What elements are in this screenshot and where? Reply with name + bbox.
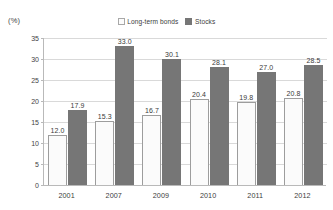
plot-area: 05101520253035 12.017.915.333.016.730.12… <box>43 38 326 186</box>
bar-stocks-2001[interactable] <box>68 110 87 185</box>
legend-item-stocks: Stocks <box>185 18 215 25</box>
x-axis-tick-label-2012: 2012 <box>279 187 326 205</box>
bar-value-label: 12.0 <box>51 127 65 134</box>
y-axis-tick-label: 25 <box>31 77 39 84</box>
bar-value-label: 20.8 <box>286 90 300 97</box>
bar-value-label: 28.5 <box>306 57 320 64</box>
legend-label-long-term-bonds: Long-term bonds <box>127 18 178 25</box>
bar-stocks-2007[interactable] <box>115 46 134 185</box>
bar-long-term-bonds-2012[interactable] <box>284 98 303 185</box>
legend-swatch-long-term-bonds <box>118 18 125 25</box>
bar-value-label: 27.0 <box>259 64 273 71</box>
bar-long-term-bonds-2001[interactable] <box>48 135 67 185</box>
bar-wrapper: 33.0 <box>115 38 134 185</box>
bar-group: 20.828.5 <box>280 38 327 185</box>
y-axis-tick-label: 0 <box>35 182 39 189</box>
bar-wrapper: 15.3 <box>95 38 114 185</box>
bar-long-term-bonds-2009[interactable] <box>142 115 161 185</box>
bar-long-term-bonds-2011[interactable] <box>237 102 256 185</box>
y-axis-tick-label: 35 <box>31 35 39 42</box>
bar-wrapper: 28.1 <box>210 38 229 185</box>
bar-chart: (%) Long-term bonds Stocks 0510152025303… <box>0 0 333 210</box>
legend-label-stocks: Stocks <box>195 18 215 25</box>
y-axis-tick-label: 15 <box>31 119 39 126</box>
x-axis-tick-label-2007: 2007 <box>90 187 137 205</box>
bar-wrapper: 20.8 <box>284 38 303 185</box>
bar-long-term-bonds-2007[interactable] <box>95 121 114 185</box>
bar-wrapper: 28.5 <box>304 38 323 185</box>
y-axis-tick-label: 5 <box>35 161 39 168</box>
x-axis-tick-label-2001: 2001 <box>43 187 90 205</box>
bar-group: 16.730.1 <box>138 38 185 185</box>
bar-group: 15.333.0 <box>91 38 138 185</box>
x-axis-tick-label-2011: 2011 <box>232 187 279 205</box>
bar-value-label: 15.3 <box>98 113 112 120</box>
bar-wrapper: 16.7 <box>142 38 161 185</box>
legend-item-long-term-bonds: Long-term bonds <box>118 18 179 25</box>
bar-wrapper: 30.1 <box>162 38 181 185</box>
bar-wrapper: 19.8 <box>237 38 256 185</box>
bar-wrapper: 12.0 <box>48 38 67 185</box>
y-axis-tick-label: 30 <box>31 56 39 63</box>
bar-value-label: 28.1 <box>212 59 226 66</box>
bar-value-label: 20.4 <box>192 91 206 98</box>
bar-value-label: 17.9 <box>71 102 85 109</box>
y-axis-tick-label: 10 <box>31 140 39 147</box>
legend-swatch-stocks <box>185 18 192 25</box>
bar-group: 19.827.0 <box>233 38 280 185</box>
bar-stocks-2012[interactable] <box>304 65 323 185</box>
bar-wrapper: 27.0 <box>257 38 276 185</box>
x-axis-tick-label-2010: 2010 <box>185 187 232 205</box>
chart-legend: Long-term bonds Stocks <box>0 18 333 25</box>
x-axis-tick-label-2009: 2009 <box>137 187 184 205</box>
bar-value-label: 19.8 <box>239 94 253 101</box>
bar-value-label: 16.7 <box>145 107 159 114</box>
bar-wrapper: 20.4 <box>190 38 209 185</box>
y-axis-tick-mark <box>41 185 44 186</box>
bar-group: 12.017.9 <box>44 38 91 185</box>
bar-groups: 12.017.915.333.016.730.120.428.119.827.0… <box>44 38 327 185</box>
bar-group: 20.428.1 <box>186 38 233 185</box>
bar-stocks-2011[interactable] <box>257 72 276 185</box>
bar-value-label: 33.0 <box>118 38 132 45</box>
x-axis: 200120072009201020112012 <box>43 187 326 205</box>
y-axis-tick-label: 20 <box>31 98 39 105</box>
bar-long-term-bonds-2010[interactable] <box>190 99 209 185</box>
bar-wrapper: 17.9 <box>68 38 87 185</box>
bar-stocks-2010[interactable] <box>210 67 229 185</box>
bar-stocks-2009[interactable] <box>162 59 181 185</box>
bar-value-label: 30.1 <box>165 51 179 58</box>
